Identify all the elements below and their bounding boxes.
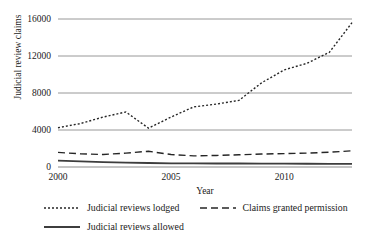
series-line <box>58 23 352 128</box>
legend-row-2: Judicial reviews allowed <box>0 217 366 236</box>
legend-item-allowed: Judicial reviews allowed <box>42 221 184 232</box>
plot-area: Judicial review claims 04000800012000160… <box>0 0 366 200</box>
y-tick-label: 8000 <box>32 88 51 98</box>
judicial-review-claims-chart: Judicial review claims 04000800012000160… <box>0 0 366 251</box>
y-tick-label: 16000 <box>27 14 51 24</box>
x-tick-label: 2000 <box>49 172 68 182</box>
y-tick-label: 0 <box>46 162 51 172</box>
legend-item-lodged: Judicial reviews lodged <box>42 202 180 213</box>
x-tick-label: 2010 <box>275 172 294 182</box>
legend-swatch-solid <box>42 222 82 231</box>
legend-label-allowed: Judicial reviews allowed <box>87 221 184 232</box>
y-tick-label: 4000 <box>32 125 51 135</box>
chart-legend: Judicial reviews lodged Claims granted p… <box>0 198 366 236</box>
series-line <box>58 161 352 164</box>
legend-item-granted: Claims granted permission <box>198 202 348 213</box>
y-axis-title: Judicial review claims <box>13 0 23 137</box>
series-line <box>58 151 352 156</box>
x-axis-title: Year <box>196 186 214 196</box>
y-tick-label: 12000 <box>27 51 51 61</box>
legend-label-lodged: Judicial reviews lodged <box>87 202 180 213</box>
chart-svg: 0400080001200016000200020052010Year <box>0 0 366 200</box>
x-tick-label: 2005 <box>162 172 181 182</box>
legend-label-granted: Claims granted permission <box>243 202 348 213</box>
legend-row-1: Judicial reviews lodged Claims granted p… <box>0 198 366 217</box>
legend-swatch-dashed <box>198 203 238 212</box>
legend-swatch-dotted <box>42 203 82 212</box>
